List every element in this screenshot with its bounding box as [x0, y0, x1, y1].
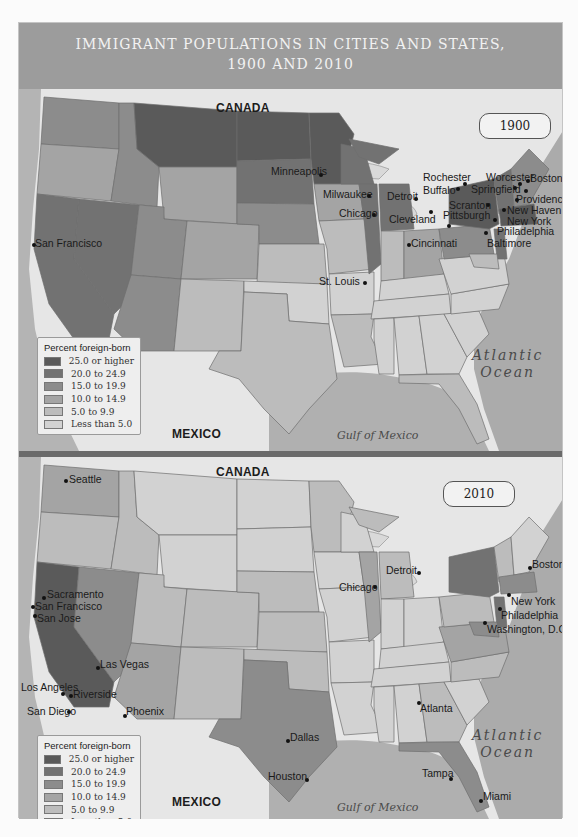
legend-label: 15.0 to 19.9 [71, 381, 126, 391]
city-label-rochester: Rochester [423, 171, 471, 183]
map-figure: IMMIGRANT POPULATIONS IN CITIES AND STAT… [18, 22, 563, 818]
city-label-boston: Boston [530, 172, 562, 184]
map-panel-1900: CANADA MEXICO Atlantic Ocean Gulf of Mex… [19, 89, 562, 451]
city-dot [502, 208, 506, 212]
legend-1900: Percent foreign-born 25.0 or higher 20.0… [37, 337, 141, 435]
legend-row: 15.0 to 19.9 [44, 380, 134, 393]
figure-title-line-1: IMMIGRANT POPULATIONS IN CITIES AND STAT… [19, 23, 562, 54]
city-label-miami: Miami [483, 790, 511, 802]
legend-row: Less than 5.0 [44, 816, 134, 819]
legend-title: Percent foreign-born [44, 740, 134, 751]
legend-row: 5.0 to 9.9 [44, 405, 134, 418]
city-label-san-diego: San Diego [27, 705, 76, 717]
legend-row: 20.0 to 24.9 [44, 766, 134, 779]
legend-row: 25.0 or higher [44, 355, 134, 368]
legend-row: 10.0 to 14.9 [44, 393, 134, 406]
city-label-philadelphia: Philadelphia [497, 225, 554, 237]
legend-label: Less than 5.0 [71, 419, 132, 429]
legend-label: 5.0 to 9.9 [71, 805, 114, 815]
figure-title-line-2: 1900 AND 2010 [19, 54, 562, 74]
legend-swatch [44, 395, 63, 404]
legend-title: Percent foreign-born [44, 342, 134, 353]
legend-2010: Percent foreign-born 25.0 or higher 20.0… [37, 735, 141, 819]
city-dot [456, 187, 460, 191]
label-canada-1900: CANADA [216, 101, 270, 115]
city-dot [64, 479, 68, 483]
city-label-milwaukee: Milwaukee [323, 188, 373, 200]
city-label-detroit: Detroit [387, 190, 418, 202]
label-mexico-2010: MEXICO [172, 795, 221, 809]
legend-swatch [44, 767, 63, 776]
title-bar: IMMIGRANT POPULATIONS IN CITIES AND STAT… [19, 23, 562, 89]
city-label-houston: Houston [268, 770, 307, 782]
legend-swatch [44, 755, 61, 764]
legend-swatch [44, 420, 63, 429]
city-label-los-angeles: Los Angeles [21, 681, 78, 693]
legend-label: 25.0 or higher [69, 754, 134, 764]
year-badge-2010: 2010 [443, 481, 515, 507]
city-label-detroit-2010: Detroit [386, 564, 417, 576]
city-label-springfield: Springfield [471, 183, 521, 195]
atlantic-line-2: Ocean [472, 744, 543, 761]
legend-swatch [44, 805, 63, 814]
legend-label: Less than 5.0 [71, 817, 132, 819]
city-dot [417, 571, 421, 575]
city-label-cleveland: Cleveland [389, 213, 436, 225]
city-label-minneapolis: Minneapolis [271, 165, 327, 177]
city-label-washington-dc: Washington, D.C. [487, 623, 562, 635]
label-canada-2010: CANADA [216, 465, 270, 479]
legend-swatch [44, 780, 63, 789]
label-atlantic-2010: Atlantic Ocean [472, 727, 543, 761]
city-label-chicago: Chicago [339, 207, 378, 219]
legend-label: 10.0 to 14.9 [71, 792, 126, 802]
legend-label: 10.0 to 14.9 [71, 394, 126, 404]
city-label-dallas: Dallas [290, 731, 319, 743]
city-dot [363, 281, 367, 285]
legend-label: 20.0 to 24.9 [71, 369, 126, 379]
city-label-san-francisco: San Francisco [35, 237, 102, 249]
legend-swatch [44, 369, 63, 378]
legend-swatch [44, 818, 63, 819]
city-label-buffalo: Buffalo [423, 184, 456, 196]
legend-swatch [44, 407, 63, 416]
city-label-boston-2010: Boston [532, 558, 562, 570]
legend-row: 5.0 to 9.9 [44, 803, 134, 816]
city-label-chicago-2010: Chicago [339, 581, 378, 593]
atlantic-line-1: Atlantic [472, 347, 543, 364]
atlantic-line-1: Atlantic [472, 727, 543, 744]
city-label-phoenix: Phoenix [126, 705, 164, 717]
city-label-st-louis: St. Louis [319, 275, 360, 287]
city-label-scranton: Scranton [449, 199, 491, 211]
city-label-las-vegas: Las Vegas [100, 658, 149, 670]
city-label-san-francisco-2010: San Francisco [35, 600, 102, 612]
legend-label: 25.0 or higher [69, 356, 134, 366]
city-dot [493, 218, 497, 222]
legend-row: 25.0 or higher [44, 753, 134, 766]
city-label-tampa: Tampa [422, 767, 454, 779]
city-label-seattle: Seattle [69, 473, 102, 485]
legend-row: 20.0 to 24.9 [44, 368, 134, 381]
legend-label: 5.0 to 9.9 [71, 407, 114, 417]
legend-row: 15.0 to 19.9 [44, 778, 134, 791]
label-mexico-1900: MEXICO [172, 427, 221, 441]
city-label-san-jose: San Jose [37, 612, 81, 624]
legend-label: 20.0 to 24.9 [71, 767, 126, 777]
legend-label: 15.0 to 19.9 [71, 779, 126, 789]
label-gulf-2010: Gulf of Mexico [337, 801, 418, 814]
city-label-philadelphia-2010: Philadelphia [501, 609, 558, 621]
city-dot [515, 198, 519, 202]
city-label-riverside: Riverside [73, 688, 117, 700]
city-dot [484, 231, 488, 235]
year-badge-1900: 1900 [479, 113, 551, 139]
atlantic-line-2: Ocean [472, 364, 543, 381]
map-panel-2010: CANADA MEXICO Atlantic Ocean Gulf of Mex… [19, 457, 562, 819]
label-gulf-1900: Gulf of Mexico [337, 429, 418, 442]
city-label-sacramento: Sacramento [47, 588, 104, 600]
legend-row: Less than 5.0 [44, 418, 134, 431]
label-atlantic-1900: Atlantic Ocean [472, 347, 543, 381]
legend-swatch [44, 793, 63, 802]
city-dot [447, 224, 451, 228]
city-label-new-york-2010: New York [511, 595, 555, 607]
city-label-baltimore: Baltimore [487, 237, 531, 249]
city-label-atlanta: Atlanta [420, 702, 453, 714]
